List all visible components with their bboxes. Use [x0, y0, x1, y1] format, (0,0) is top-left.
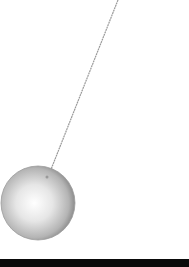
- pendulum-drawing: [0, 0, 189, 267]
- pendulum-string: [48, 0, 118, 177]
- bob-attachment-mark: [46, 176, 49, 179]
- floor-bar: [0, 259, 189, 267]
- pendulum-bob: [1, 166, 75, 240]
- pendulum-scene: pendulum: [0, 0, 189, 267]
